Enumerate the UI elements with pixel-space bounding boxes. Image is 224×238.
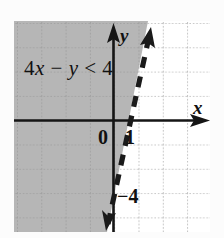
y-tick-label-negative-4: −4 <box>117 186 138 206</box>
y-axis-label: y <box>120 26 128 45</box>
inequality-expression: 4x − y < 4 <box>24 58 113 79</box>
inequality-constant: 4 <box>102 56 113 80</box>
plot-area <box>14 21 210 232</box>
inequality-variable-x: x <box>35 56 45 80</box>
inequality-coefficient: 4 <box>24 56 35 80</box>
origin-label: 0 <box>98 127 108 147</box>
inequality-relation-sign: < <box>84 56 96 80</box>
inequality-minus-sign: − <box>51 56 63 80</box>
graph-canvas <box>14 21 210 232</box>
x-tick-label-1: 1 <box>125 127 135 147</box>
x-axis-label: x <box>193 98 203 117</box>
inequality-variable-y: y <box>69 56 79 80</box>
inequality-graph-figure: 4x − y < 4 0 1 −4 x y <box>0 0 224 238</box>
